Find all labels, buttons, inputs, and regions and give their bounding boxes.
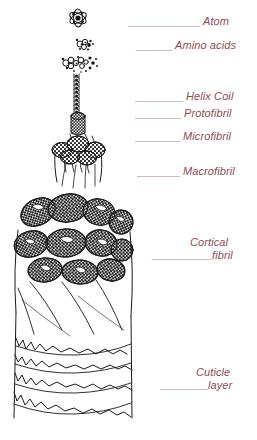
atom-glyph bbox=[68, 9, 88, 27]
label-helix-coil: Helix Coil bbox=[186, 90, 233, 103]
label-microfibril: Microfibril bbox=[183, 130, 231, 143]
label-macrofibril: Macrofibril bbox=[183, 165, 235, 178]
leader-line-atom bbox=[128, 26, 200, 27]
leader-line-amino-acids bbox=[136, 50, 172, 51]
cuticle-scales bbox=[14, 312, 132, 418]
label-amino-acids: Amino acids bbox=[175, 39, 236, 52]
label-cuticle-layer-line2: layer bbox=[208, 379, 232, 392]
leader-line-microfibril bbox=[135, 141, 180, 142]
leader-line-macrofibril bbox=[137, 176, 180, 177]
microfibril-bundle bbox=[52, 134, 105, 188]
label-cuticle-layer-line1: Cuticle bbox=[196, 366, 230, 379]
label-cortical-fibril-line1: Cortical bbox=[190, 236, 228, 249]
label-atom: Atom bbox=[203, 15, 229, 28]
amino-acid-cluster bbox=[62, 39, 98, 73]
leader-line-cuticle-layer bbox=[160, 389, 208, 390]
helix-coil-strand bbox=[74, 74, 79, 114]
leader-line-cortical-fibril bbox=[152, 259, 212, 260]
leader-line-helix-coil bbox=[135, 101, 183, 102]
protofibril-bundle bbox=[71, 113, 85, 135]
hair-structure-figure: Atom Amino acids Helix Coil Protofibril … bbox=[0, 0, 257, 440]
label-protofibril: Protofibril bbox=[184, 107, 232, 120]
macrofibril-mass bbox=[11, 191, 136, 285]
leader-line-protofibril bbox=[135, 118, 181, 119]
label-cortical-fibril-line2: fibril bbox=[212, 249, 233, 262]
